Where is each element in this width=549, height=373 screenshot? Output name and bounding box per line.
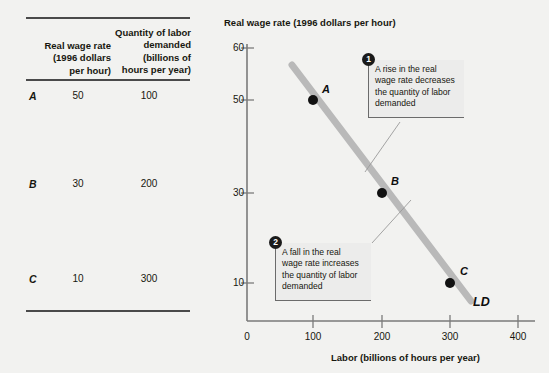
data-point-label-c: C (460, 265, 468, 277)
callout-1-line1: A rise in the real (375, 64, 458, 75)
table-top-rule (26, 17, 190, 19)
y-tick-label-10: 10 (222, 277, 244, 288)
table-header-wage-line2: (1996 dollars (24, 52, 111, 64)
data-point-label-a: A (322, 83, 330, 95)
table-header-wage-line1: Real wage rate (24, 40, 111, 52)
x-tick-label-200: 200 (367, 331, 397, 342)
y-tick-label-30: 30 (222, 187, 244, 198)
callout-1-line3: the quantity of labor (375, 87, 458, 98)
callout-2-line4: demanded (282, 281, 365, 292)
annotation-badge-1: 1 (362, 53, 375, 66)
table-header-wage-line3: per hour) (24, 65, 111, 77)
callout-1-line4: demanded (375, 98, 458, 109)
table-row-quantity: 200 (118, 178, 180, 189)
demand-schedule-table: Real wage rate (1996 dollars per hour) Q… (0, 0, 215, 373)
x-tick-label-0: 0 (232, 331, 262, 342)
callout-1-leader-line (365, 122, 400, 172)
table-header-wage: Real wage rate (1996 dollars per hour) (24, 40, 111, 77)
table-header-quantity-line1: Quantity of labor (113, 27, 191, 39)
x-tick-label-400: 400 (503, 331, 533, 342)
data-point-a (308, 95, 318, 105)
annotation-badge-2: 2 (269, 236, 282, 249)
callout-2-line3: the quantity of labor (282, 270, 365, 281)
table-row-wage: 50 (50, 90, 106, 101)
table-row-quantity: 300 (118, 273, 180, 284)
y-tick-label-60: 60 (222, 42, 244, 53)
table-header-quantity-line2: demanded (113, 39, 191, 51)
labor-demand-figure: Real wage rate (1996 dollars per hour) Q… (0, 0, 549, 373)
annotation-callout-2: A fall in the real wage rate increases t… (275, 243, 371, 301)
table-row-wage: 30 (50, 178, 106, 189)
table-row-quantity: 100 (118, 90, 180, 101)
table-header-quantity-line4: hours per year) (113, 64, 191, 76)
table-bottom-rule (26, 310, 190, 312)
callout-2-line1: A fall in the real (282, 247, 365, 258)
x-tick-label-300: 300 (435, 331, 465, 342)
table-row-label: B (29, 178, 45, 190)
table-header-quantity: Quantity of labor demanded (billions of … (113, 27, 191, 77)
plot-area (215, 0, 549, 373)
callout-1-line2: wage rate decreases (375, 75, 458, 86)
table-header-quantity-line3: (billions of (113, 52, 191, 64)
demand-curve-label: LD (473, 295, 490, 309)
table-row-label: C (29, 273, 45, 285)
y-tick-label-50: 50 (222, 94, 244, 105)
callout-2-leader-line (372, 200, 411, 243)
data-point-c (445, 278, 455, 288)
table-header-rule (26, 79, 190, 81)
callout-2-line2: wage rate increases (282, 258, 365, 269)
annotation-callout-1: A rise in the real wage rate decreases t… (368, 60, 464, 118)
data-point-b (377, 188, 387, 198)
table-row-label: A (29, 90, 45, 102)
labor-demand-chart: Real wage rate (1996 dollars per hour) L… (215, 0, 549, 373)
table-row-wage: 10 (50, 273, 106, 284)
x-tick-label-100: 100 (298, 331, 328, 342)
data-point-label-b: B (391, 175, 399, 187)
